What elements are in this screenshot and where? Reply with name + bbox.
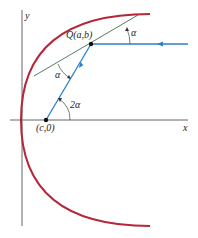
two-alpha-label: 2α	[70, 99, 81, 110]
tangent-line	[34, 15, 138, 76]
point-q-label: Q(a,b)	[66, 29, 93, 41]
angle-two-alpha-arrow-icon	[58, 98, 62, 102]
focus-label: (c,0)	[36, 122, 55, 134]
angle-alpha-left-arrow-icon	[67, 75, 71, 79]
x-axis-label: x	[182, 122, 188, 133]
alpha-top-label: α	[131, 27, 137, 38]
y-axis-label: y	[24, 10, 30, 21]
incoming-ray-arrow-icon	[157, 42, 163, 47]
angle-alpha-top-arc	[127, 29, 130, 44]
angle-alpha-top-arrow-icon	[125, 27, 129, 31]
alpha-left-label: α	[55, 69, 61, 80]
point-q	[89, 42, 93, 46]
angle-two-alpha-arc	[59, 99, 70, 120]
parabola-reflection-diagram: y x Q(a,b) (c,0) α α 2α	[0, 0, 198, 238]
